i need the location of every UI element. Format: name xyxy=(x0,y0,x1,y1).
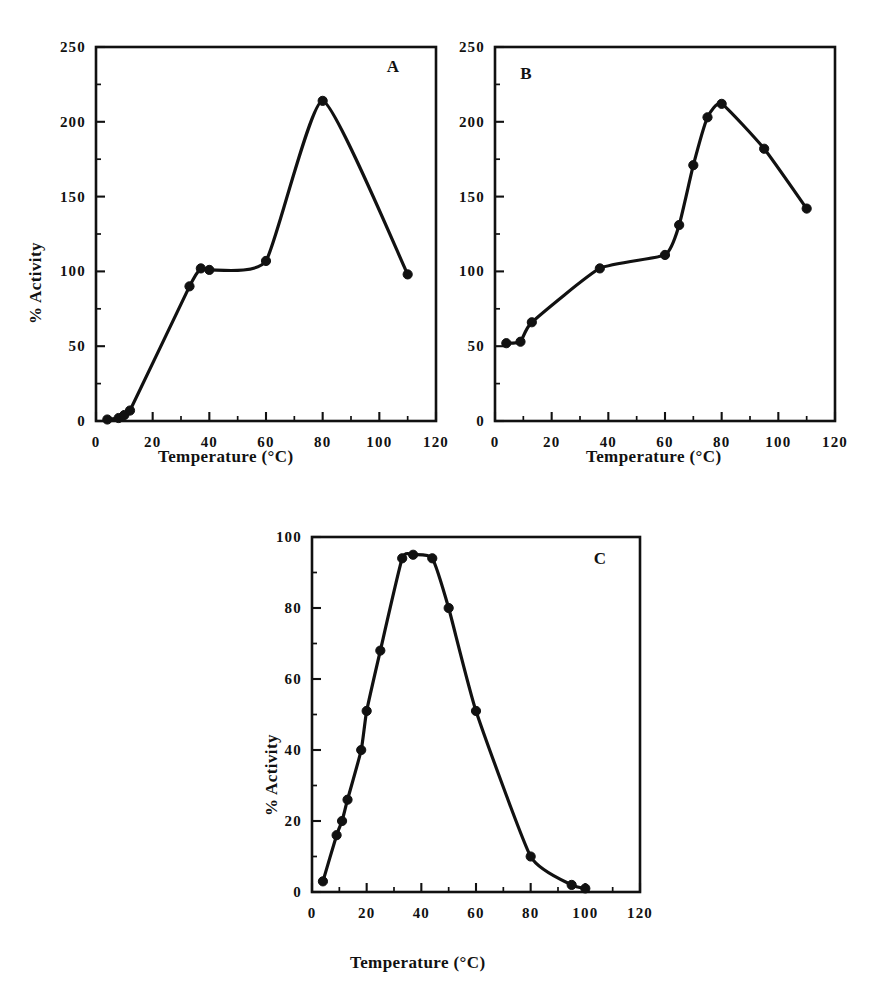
panel-letter: A xyxy=(387,57,400,76)
data-point-marker xyxy=(357,745,366,754)
data-curve xyxy=(506,103,806,343)
y-tick-label: 100 xyxy=(276,529,302,545)
data-point-marker xyxy=(376,646,385,655)
data-point-marker xyxy=(567,880,576,889)
y-tick-label: 0 xyxy=(476,413,485,429)
x-tick-label: 100 xyxy=(366,434,392,450)
data-point-marker xyxy=(581,884,590,893)
data-point-marker xyxy=(675,220,684,229)
y-tick-label: 0 xyxy=(77,413,86,429)
x-tick-label: 120 xyxy=(822,434,848,450)
y-tick-label: 40 xyxy=(285,742,302,758)
figure-root: 020406080100120050100150200250A % Activi… xyxy=(0,0,871,998)
x-tick-label: 80 xyxy=(314,434,331,450)
x-tick-label: 40 xyxy=(413,905,430,921)
data-point-marker xyxy=(527,318,536,327)
data-point-marker xyxy=(185,282,194,291)
x-tick-label: 60 xyxy=(467,905,484,921)
data-point-marker xyxy=(103,415,112,424)
panel-c-plot: 020406080100120020406080100C xyxy=(200,516,660,916)
x-tick-label: 80 xyxy=(522,905,539,921)
panel-c-x-axis-title: Temperature (°C) xyxy=(350,953,485,973)
chart-panel-b: 020406080100120050100150200250B Temperat… xyxy=(440,24,871,444)
data-point-marker xyxy=(689,161,698,170)
x-tick-label: 0 xyxy=(92,434,101,450)
y-tick-label: 0 xyxy=(293,884,302,900)
y-tick-label: 20 xyxy=(285,813,302,829)
data-point-marker xyxy=(428,554,437,563)
y-tick-label: 200 xyxy=(459,114,485,130)
data-point-marker xyxy=(703,113,712,122)
y-tick-label: 50 xyxy=(69,338,86,354)
panel-a-y-axis-title: % Activity xyxy=(26,242,46,324)
plot-frame xyxy=(96,47,436,421)
panel-letter: C xyxy=(594,549,606,568)
panel-a-x-axis-title: Temperature (°C) xyxy=(158,447,293,467)
y-tick-label: 200 xyxy=(60,114,86,130)
chart-panel-a: 020406080100120050100150200250A % Activi… xyxy=(0,24,450,444)
data-point-marker xyxy=(502,339,511,348)
y-tick-label: 60 xyxy=(285,671,302,687)
data-point-marker xyxy=(362,706,371,715)
panel-a-plot: 020406080100120050100150200250A xyxy=(0,24,450,444)
data-point-marker xyxy=(660,250,669,259)
x-tick-label: 100 xyxy=(765,434,791,450)
chart-panel-c: 020406080100120020406080100C % Activity … xyxy=(200,516,660,916)
x-tick-label: 120 xyxy=(627,905,653,921)
y-tick-label: 150 xyxy=(60,189,86,205)
x-tick-label: 20 xyxy=(543,434,560,450)
data-point-marker xyxy=(343,795,352,804)
data-point-marker xyxy=(409,550,418,559)
data-point-marker xyxy=(444,603,453,612)
x-tick-label: 0 xyxy=(491,434,500,450)
data-point-marker xyxy=(261,256,270,265)
x-tick-label: 20 xyxy=(358,905,375,921)
panel-b-x-axis-title: Temperature (°C) xyxy=(586,447,721,467)
data-point-marker xyxy=(318,877,327,886)
data-point-marker xyxy=(332,831,341,840)
data-point-marker xyxy=(196,264,205,273)
y-tick-label: 150 xyxy=(459,189,485,205)
data-curve xyxy=(323,554,585,889)
data-point-marker xyxy=(760,144,769,153)
y-tick-label: 50 xyxy=(468,338,485,354)
data-point-marker xyxy=(516,337,525,346)
y-tick-label: 80 xyxy=(285,600,302,616)
x-tick-label: 100 xyxy=(572,905,598,921)
data-curve xyxy=(107,101,407,420)
y-tick-label: 100 xyxy=(60,263,86,279)
panel-letter: B xyxy=(520,64,531,83)
x-tick-label: 0 xyxy=(308,905,317,921)
y-tick-label: 250 xyxy=(60,39,86,55)
y-tick-label: 100 xyxy=(459,263,485,279)
data-point-marker xyxy=(717,99,726,108)
panel-c-y-axis-title: % Activity xyxy=(262,734,282,816)
data-point-marker xyxy=(526,852,535,861)
data-point-marker xyxy=(471,706,480,715)
data-point-marker xyxy=(205,265,214,274)
panel-b-plot: 020406080100120050100150200250B xyxy=(440,24,871,444)
data-point-marker xyxy=(125,406,134,415)
plot-frame xyxy=(495,47,835,421)
figure-caption-cutoff xyxy=(0,986,871,998)
data-point-marker xyxy=(398,554,407,563)
data-point-marker xyxy=(802,204,811,213)
data-point-marker xyxy=(595,264,604,273)
data-point-marker xyxy=(318,96,327,105)
data-point-marker xyxy=(337,816,346,825)
data-point-marker xyxy=(403,270,412,279)
y-tick-label: 250 xyxy=(459,39,485,55)
